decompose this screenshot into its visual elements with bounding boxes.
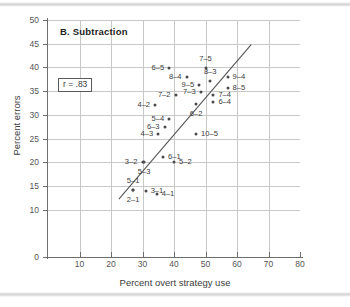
data-point: [195, 132, 198, 135]
data-point: [161, 155, 164, 158]
data-point-label: 4–1: [162, 191, 175, 199]
data-point-label: 4–2: [137, 102, 150, 110]
data-point: [173, 161, 176, 164]
data-point: [174, 93, 177, 96]
x-axis-line: [47, 257, 303, 258]
x-axis-tick-label: 40: [162, 260, 186, 269]
x-axis-tick-label: 70: [257, 260, 281, 269]
data-point: [143, 161, 146, 164]
data-point-label: 10–5: [201, 130, 218, 138]
data-point: [144, 189, 147, 192]
gridline-vertical: [143, 20, 144, 257]
data-point-label: 5–3: [138, 168, 151, 176]
figure-container: B. Subtraction r = .83 Percent errors Pe…: [0, 0, 350, 307]
x-axis-tick: [80, 252, 81, 257]
y-axis-tick-label: 40: [17, 63, 39, 72]
x-axis-tick-label: 60: [225, 260, 249, 269]
x-axis-tick: [237, 252, 238, 257]
x-axis-tick: [111, 252, 112, 257]
gridline-vertical: [269, 20, 270, 257]
x-axis-label: Percent overt strategy use: [0, 277, 350, 288]
data-point: [212, 101, 215, 104]
data-point: [195, 103, 198, 106]
y-axis-tick: [43, 44, 48, 45]
gridline-vertical: [80, 20, 81, 257]
data-point: [163, 125, 166, 128]
data-point: [185, 75, 188, 78]
x-axis-tick: [269, 252, 270, 257]
y-axis-tick: [43, 67, 48, 68]
x-axis-tick: [143, 252, 144, 257]
data-point: [209, 79, 212, 82]
panel-title: B. Subtraction: [60, 26, 128, 37]
y-axis-tick-label: 0: [17, 253, 39, 262]
gridline-vertical: [111, 20, 112, 257]
data-point-label: 3–2: [125, 158, 138, 166]
data-point: [132, 188, 135, 191]
y-axis-tick-label: 50: [17, 16, 39, 25]
data-point-label: 9–4: [233, 73, 246, 81]
y-axis-tick: [43, 210, 48, 211]
data-point: [154, 104, 157, 107]
data-point-label: 8–4: [169, 73, 182, 81]
data-point: [226, 75, 229, 78]
x-axis-tick: [206, 252, 207, 257]
y-axis-tick-label: 25: [17, 135, 39, 144]
data-point: [212, 93, 215, 96]
y-axis-tick-label: 15: [17, 182, 39, 191]
data-point-label: 6–4: [218, 99, 231, 107]
data-point-label: 5–2: [179, 158, 192, 166]
x-axis-tick-label: 80: [288, 260, 312, 269]
data-point: [157, 132, 160, 135]
data-point-label: 7–5: [199, 56, 212, 64]
gridline-vertical: [237, 20, 238, 257]
y-axis-tick-label: 45: [17, 40, 39, 49]
y-axis-tick: [43, 20, 48, 21]
x-axis-tick-label: 10: [68, 260, 92, 269]
correlation-annotation: r = .83: [58, 78, 92, 92]
y-axis-tick: [43, 139, 48, 140]
data-point-label: 8–5: [233, 84, 246, 92]
gridline-vertical: [174, 20, 175, 257]
data-point-label: 5–1: [127, 177, 140, 185]
top-divider-band: [0, 2, 350, 7]
x-axis-tick-label: 30: [131, 260, 155, 269]
y-axis-tick: [43, 91, 48, 92]
x-axis-tick-label: 20: [99, 260, 123, 269]
bottom-divider-band: [0, 292, 350, 297]
x-axis-tick: [174, 252, 175, 257]
data-point: [199, 91, 202, 94]
data-point: [226, 86, 229, 89]
x-axis-tick: [300, 252, 301, 257]
data-point: [198, 83, 201, 86]
data-point: [168, 67, 171, 70]
data-point: [168, 117, 171, 120]
plot-area: [48, 20, 300, 257]
y-axis-tick: [43, 257, 48, 258]
x-axis-tick-label: 50: [194, 260, 218, 269]
data-point-label: 8–3: [204, 68, 217, 76]
y-axis-tick-label: 10: [17, 206, 39, 215]
y-axis-tick-label: 30: [17, 111, 39, 120]
data-point-label: 6–2: [190, 110, 203, 118]
data-point-label: 6–5: [152, 65, 165, 73]
y-axis-tick-label: 35: [17, 87, 39, 96]
y-axis-tick: [43, 115, 48, 116]
data-point-label: 2–1: [127, 196, 140, 204]
data-point: [155, 193, 158, 196]
data-point-label: 7–3: [183, 88, 196, 96]
data-point-label: 4–3: [141, 130, 154, 138]
y-axis-tick: [43, 162, 48, 163]
y-axis-tick-label: 20: [17, 158, 39, 167]
y-axis-tick: [43, 186, 48, 187]
data-point-label: 7–2: [158, 91, 171, 99]
